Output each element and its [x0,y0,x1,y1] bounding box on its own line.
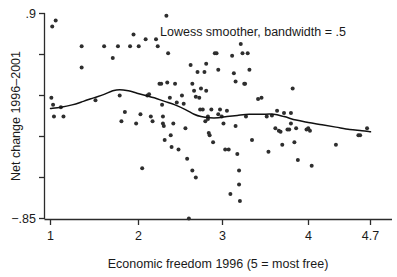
data-point [275,109,279,113]
data-point [232,71,236,75]
y-tick-label-top: .9 [26,7,36,21]
data-point [154,37,158,41]
data-point [187,217,191,221]
data-point [163,138,167,142]
data-point [246,51,250,55]
data-point [192,89,196,93]
data-point [180,94,184,98]
data-point [289,122,293,126]
data-point [168,96,172,100]
data-point [292,140,296,144]
data-point [273,126,277,130]
data-point [234,79,238,83]
data-point [358,133,362,137]
data-point [221,122,225,126]
data-point [137,44,141,48]
data-point [51,103,55,107]
data-point [209,108,213,112]
data-point [190,82,194,86]
data-point [165,81,169,85]
data-point [80,44,84,48]
data-point [111,56,115,60]
data-point [61,115,65,119]
data-point [156,44,160,48]
data-point [216,112,220,116]
data-point [189,63,193,67]
data-point [234,124,238,128]
data-point [256,97,260,101]
data-point [80,65,84,69]
data-point [265,115,269,119]
data-point [202,70,206,74]
data-point [216,68,220,72]
data-point [49,96,53,100]
data-point [177,147,181,151]
data-point [185,157,189,161]
y-tick-label-bottom: −.85 [11,212,36,226]
data-point [218,108,222,112]
data-point [334,143,338,147]
data-point [151,119,155,123]
data-point [239,42,243,46]
data-point [182,102,186,106]
data-point [241,51,245,55]
data-point [175,101,179,105]
data-point [159,82,163,86]
data-point [243,82,247,86]
data-point [228,192,232,196]
data-point [204,89,208,93]
data-point [196,70,200,74]
data-point [289,111,293,115]
data-point [204,62,208,66]
data-point [296,158,300,162]
data-point [132,33,136,37]
data-point [173,82,177,86]
x-tick-label-4: 4 [305,229,312,243]
scatter-plot-figure: .9 −.85 1 2 3 4 4.7 Net change 1996–2001… [0,0,397,277]
x-tick-label-5: 4.7 [362,229,379,243]
data-point [280,143,284,147]
data-point [169,133,173,137]
data-point [291,86,295,90]
x-axis-title: Economic freedom 1996 (5 = most free) [108,257,329,271]
data-point [161,115,165,119]
data-point [194,95,198,99]
data-point [164,14,168,18]
data-point [279,130,283,134]
x-tick-label-1: 1 [47,229,54,243]
data-point [238,199,242,203]
data-point [144,37,148,41]
data-point [211,140,215,144]
data-point [294,126,298,130]
data-point [162,124,166,128]
data-point [171,122,175,126]
data-point [190,168,194,172]
data-point [128,44,132,48]
data-point [123,110,127,114]
x-tick-label-3: 3 [219,229,226,243]
data-point [116,44,120,48]
data-point [170,145,174,149]
data-point [52,115,56,119]
chart-canvas: .9 −.85 1 2 3 4 4.7 Net change 1996–2001… [0,0,397,277]
lowess-annotation: Lowess smoother, bandwidth = .5 [160,25,346,39]
data-point [365,126,369,130]
y-axis-title: Net change 1996–2001 [9,51,23,181]
data-point [194,176,198,180]
data-point [102,44,106,48]
data-point [287,127,291,131]
data-point [308,129,312,133]
data-point [235,152,239,156]
data-point [266,150,270,154]
data-point [237,168,241,172]
data-point [247,68,251,72]
chart-background [0,0,397,277]
data-point [227,147,231,151]
data-point [310,164,314,168]
data-point [208,133,212,137]
data-point [138,112,142,116]
data-point [201,108,205,112]
data-point [199,86,203,90]
data-point [282,111,286,115]
data-point [250,138,254,142]
